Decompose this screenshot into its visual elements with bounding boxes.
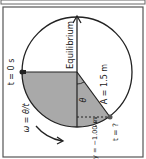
label-amplitude: A = 1.5 m [100, 64, 109, 105]
point-t-unknown [108, 115, 113, 120]
top-frame [1, 0, 145, 4]
label-y-value: y = −1.00 m [91, 117, 99, 159]
label-theta: θ [79, 97, 88, 102]
label-equilibrium: Equilibrium [65, 21, 75, 69]
label-t-unknown: t = ? [111, 123, 120, 141]
label-t0: t = 0 s [7, 59, 16, 86]
diagram-canvas: t = 0 s Equilibrium A = 1.5 m θ t = ? y … [0, 0, 146, 159]
marker-t0 [21, 70, 26, 74]
label-omega: ω = θ/t [22, 103, 31, 133]
shm-circle-diagram: t = 0 s Equilibrium A = 1.5 m θ t = ? y … [0, 0, 146, 159]
